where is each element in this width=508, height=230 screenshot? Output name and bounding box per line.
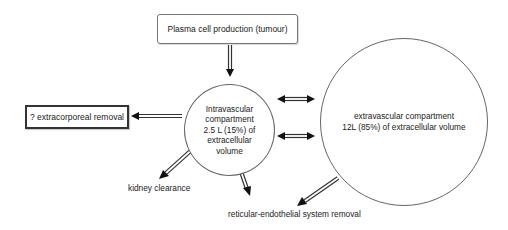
- intravascular-line: extracellular: [199, 135, 261, 146]
- extravascular-compartment-circle: extravascular compartment 12L (85%) of e…: [320, 38, 488, 206]
- intravascular-line: 2.5 L (15%) of: [199, 125, 261, 136]
- extravascular-line: 12L (85%) of extracellular volume: [342, 122, 465, 133]
- intravascular-compartment-circle: Intravascular compartment 2.5 L (15%) of…: [184, 84, 275, 176]
- intravascular-line: Intravascular: [199, 104, 261, 115]
- res-removal-label: reticular-endothelial system removal: [228, 209, 361, 219]
- extravascular-line: extravascular compartment: [342, 111, 465, 122]
- intravascular-line: compartment: [199, 114, 261, 125]
- extracorporeal-removal-box: ? extracorporeal removal: [25, 105, 129, 129]
- arrow-to-extracorporeal: [131, 112, 182, 120]
- diagram-canvas: Plasma cell production (tumour) ? extrac…: [0, 0, 508, 230]
- plasma-cell-production-box: Plasma cell production (tumour): [157, 14, 298, 44]
- arrow-extravascular-to-res: [297, 178, 338, 206]
- extravascular-compartment-text: extravascular compartment 12L (85%) of e…: [342, 111, 465, 133]
- arrow-production-to-intravascular: [226, 45, 234, 77]
- double-arrow-upper: [277, 95, 315, 103]
- kidney-clearance-label: kidney clearance: [128, 183, 190, 193]
- double-arrow-lower: [277, 132, 315, 140]
- intravascular-line: volume: [199, 146, 261, 157]
- extracorporeal-removal-label: ? extracorporeal removal: [30, 112, 124, 122]
- plasma-cell-production-label: Plasma cell production (tumour): [168, 24, 288, 34]
- intravascular-compartment-text: Intravascular compartment 2.5 L (15%) of…: [199, 104, 261, 157]
